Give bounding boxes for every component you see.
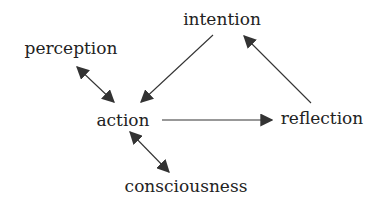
node-perception: perception — [25, 40, 118, 57]
edge-perception-action-bidirectional — [77, 67, 114, 102]
edge-action-consciousness-bidirectional — [130, 132, 169, 172]
edge-reflection-to-intention — [244, 36, 311, 103]
node-reflection: reflection — [281, 110, 364, 127]
node-action: action — [96, 112, 149, 129]
concept-diagram: intention perception action reflection c… — [0, 0, 388, 206]
node-consciousness: consciousness — [125, 178, 248, 195]
edge-intention-to-action — [141, 35, 213, 102]
node-intention: intention — [183, 11, 261, 28]
